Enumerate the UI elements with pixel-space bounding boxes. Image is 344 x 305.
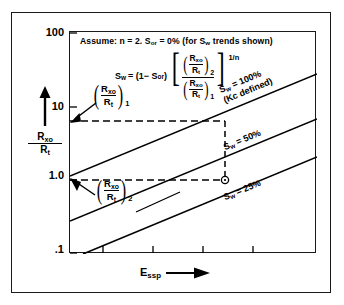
callout-2-num-sub: xo <box>111 183 119 190</box>
plot-area: Assume: n = 2. Sor = 0% (for Sw trends s… <box>69 31 316 253</box>
callout-2-den-sub: t <box>114 195 116 202</box>
formula-denominator-ratio: ( Rxo Rt ) 1 <box>182 79 214 101</box>
callout-2-den: Rt <box>107 192 116 203</box>
callout-1-index: 1 <box>125 99 129 108</box>
den-rxo: Rxo <box>189 79 202 89</box>
trend-line-sw-25 <box>83 157 317 254</box>
y-tick-label-10: 10 <box>52 101 64 112</box>
x-axis-title: Essp <box>140 266 210 280</box>
y-axis-title: Rxo Rt <box>28 132 62 156</box>
y-tick-label-100: 100 <box>46 27 64 38</box>
callout-1-den-r: R <box>104 96 111 107</box>
denominator-index: 1 <box>210 93 214 100</box>
y-tick-label-1: 1.0 <box>49 170 64 181</box>
y-axis-den-sub: t <box>47 148 49 157</box>
callout-1-den: Rt <box>104 97 113 108</box>
callout-2-paren-left-icon: ( <box>97 181 102 200</box>
denominator-fraction: Rxo Rt <box>189 79 202 101</box>
y-axis-num-sub: xo <box>44 135 52 144</box>
numerator-rt: Rt <box>192 66 200 76</box>
y-axis-title-denominator: Rt <box>28 144 62 156</box>
callout-1-paren-left-icon: ( <box>94 86 99 105</box>
callout-2-num-r: R <box>104 178 111 189</box>
callout-1-num-r: R <box>101 83 108 94</box>
paren-right-icon-2: ) <box>204 82 208 98</box>
callout-2-paren-right-icon: ) <box>121 181 126 200</box>
callout-2-num: Rxo <box>104 179 119 190</box>
callout-2-den-r: R <box>107 191 114 202</box>
y-axis-arrow-icon <box>37 86 53 126</box>
den-r-sub: xo <box>196 81 203 88</box>
y-axis-title-numerator: Rxo <box>28 132 62 144</box>
callout-2-ratio: ( Rxo Rt ) 2 <box>95 179 133 203</box>
x-tick-marks <box>103 246 253 253</box>
callout-2-leader <box>136 192 180 212</box>
formula-equals: = (1− S <box>128 71 158 81</box>
formula-exponent: 1/n <box>228 53 239 62</box>
numerator-index: 2 <box>210 69 214 76</box>
x-axis-sub: ssp <box>147 271 161 280</box>
formula-numerator-ratio: ( Rxo Rt ) 2 <box>182 54 214 76</box>
y-tick-label-0.1: .1 <box>55 244 64 255</box>
denominator-r-sub: t <box>198 68 200 75</box>
trend-line-sw-50 <box>70 119 317 221</box>
callout-1-num-sub: xo <box>108 88 116 95</box>
bracket-left-icon: [ <box>172 52 180 85</box>
numerator-rxo: Rxo <box>189 54 202 64</box>
paren-left-icon: ( <box>184 57 188 73</box>
callout-ratio-2: ( Rxo Rt ) 2 <box>95 179 133 203</box>
callout-1-ratio: ( Rxo Rt ) 1 <box>92 84 130 108</box>
bracket-right-icon: ] <box>217 52 225 85</box>
den-rt: Rt <box>192 90 200 100</box>
callout-2-fraction: Rxo Rt <box>104 179 119 203</box>
paren-right-icon: ) <box>204 57 208 73</box>
numerator-r-sub: xo <box>196 56 203 63</box>
x-axis-arrow-icon <box>166 267 210 279</box>
numerator-fraction: Rxo Rt <box>189 54 202 76</box>
den-rt-sub: t <box>198 93 200 100</box>
callout-ratio-1: ( Rxo Rt ) 1 <box>92 84 130 108</box>
assume-note-part2: = 0% (for S <box>157 36 205 46</box>
formula-big-fraction: ( Rxo Rt ) 2 ( Rxo <box>182 52 214 100</box>
callout-1-den-sub: t <box>111 100 113 107</box>
assume-note-part1: Assume: n = 2. S <box>80 36 151 46</box>
callout-1-num: Rxo <box>101 84 116 95</box>
figure-root: 100 10 1.0 .1 Rxo Rt Essp <box>0 0 344 305</box>
formula-paren-close: ) <box>164 71 167 81</box>
y-axis-tick-labels: 100 10 1.0 .1 <box>0 0 69 260</box>
operating-point-marker <box>221 176 228 183</box>
paren-left-icon-2: ( <box>184 82 188 98</box>
callout-2-index: 2 <box>128 194 132 203</box>
callout-1-fraction: Rxo Rt <box>101 84 116 108</box>
callout-1-paren-right-icon: ) <box>118 86 123 105</box>
x-axis-title-text: Essp <box>140 266 161 280</box>
